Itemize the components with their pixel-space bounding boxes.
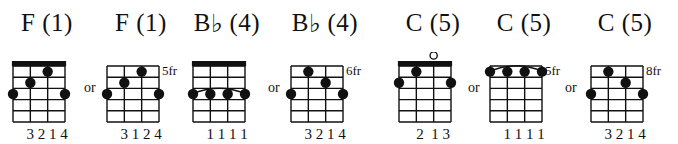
finger-dot [42, 66, 52, 76]
chord-root: C [406, 9, 423, 36]
finger-dot [188, 89, 198, 99]
finger-dot [338, 89, 348, 99]
finger-dot [119, 78, 129, 88]
finger-dot [586, 89, 596, 99]
barre-arc [192, 88, 246, 94]
finger-numbers: 3 2 1 4 [304, 126, 345, 142]
finger-dot [620, 78, 630, 88]
or-separator: or [468, 80, 480, 96]
chord-diagram-f-open: F (1)3 2 1 4 [10, 0, 84, 144]
chord-root: B [194, 9, 211, 36]
finger-numbers: 3 1 2 4 [120, 126, 161, 142]
finger-dot [446, 78, 456, 88]
or-separator: or [565, 80, 577, 96]
chord-diagram-bb-open: B♭ (4)1 1 1 1 [190, 0, 264, 144]
finger-dot [60, 89, 70, 99]
chord-title: C (5) [487, 8, 561, 38]
fret-position-label: 5fr [545, 64, 560, 77]
finger-dot [394, 78, 404, 88]
finger-numbers: 1 1 1 1 [503, 126, 544, 142]
fretboard-grid [185, 52, 269, 126]
or-separator: or [84, 80, 96, 96]
finger-dot [102, 89, 112, 99]
finger-numbers: 3 2 1 4 [26, 126, 67, 142]
finger-numbers: 2 1 3 [416, 126, 450, 142]
fretboard-grid [5, 52, 89, 126]
chord-root: C [598, 9, 615, 36]
chord-diagram-c-8fr: C (5)8fr3 2 1 4 [588, 0, 662, 144]
chord-title: B♭ (4) [190, 8, 264, 39]
finger-dot [136, 66, 146, 76]
fret-position-label: 8fr [646, 64, 661, 77]
finger-dot [154, 89, 164, 99]
chord-title: C (5) [588, 8, 662, 38]
finger-dot [638, 89, 648, 99]
fretboard-grid [391, 52, 475, 126]
finger-dot [25, 78, 35, 88]
chord-title: B♭ (4) [288, 8, 362, 39]
finger-dot [303, 66, 313, 76]
finger-dot [320, 78, 330, 88]
barre-arc [489, 66, 543, 72]
chord-root: B [292, 9, 309, 36]
chord-title: F (1) [10, 8, 84, 38]
chord-root: F [21, 9, 35, 36]
finger-numbers: 1 1 1 1 [206, 126, 247, 142]
finger-dot [205, 89, 215, 99]
finger-dot [286, 89, 296, 99]
nut [192, 61, 246, 66]
chord-title: F (1) [104, 8, 178, 38]
finger-dot [485, 66, 495, 76]
chord-diagram-c-5fr: C (5)5fr1 1 1 1 [487, 0, 561, 144]
chord-diagram-c-open: C (5)2 1 3 [396, 0, 470, 144]
finger-dot [8, 89, 18, 99]
chord-degree: (5) [514, 9, 551, 36]
fret-position-label: 6fr [346, 64, 361, 77]
fret-position-label: 5fr [162, 64, 177, 77]
finger-numbers: 3 2 1 4 [604, 126, 645, 142]
chord-degree: (1) [130, 9, 167, 36]
nut [12, 61, 66, 66]
finger-dot [519, 66, 529, 76]
finger-dot [240, 89, 250, 99]
nut [398, 61, 452, 66]
or-separator: or [268, 80, 280, 96]
finger-dot [411, 66, 421, 76]
chord-degree: (4) [223, 9, 260, 36]
chord-root: C [497, 9, 514, 36]
chord-degree: (5) [423, 9, 460, 36]
finger-dot [502, 66, 512, 76]
chord-degree: (1) [36, 9, 73, 36]
finger-dot [603, 66, 613, 76]
open-string-marker [430, 52, 437, 59]
chord-root: F [115, 9, 129, 36]
chord-accidental-icon: ♭ [309, 9, 321, 38]
finger-dot [222, 89, 232, 99]
chord-title: C (5) [396, 8, 470, 38]
chord-chart: F (1)3 2 1 4F (1)5fr3 1 2 4B♭ (4)1 1 1 1… [0, 0, 678, 144]
chord-accidental-icon: ♭ [211, 9, 223, 38]
chord-diagram-bb-6fr: B♭ (4)6fr3 2 1 4 [288, 0, 362, 144]
chord-diagram-f-5fr: F (1)5fr3 1 2 4 [104, 0, 178, 144]
chord-degree: (5) [615, 9, 652, 36]
chord-degree: (4) [321, 9, 358, 36]
